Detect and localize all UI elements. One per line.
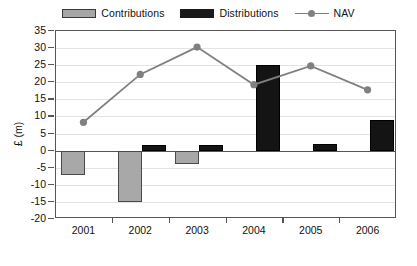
gridline	[56, 185, 395, 186]
distributions-swatch-icon	[180, 9, 214, 18]
x-axis-tick-mark	[226, 218, 227, 223]
y-axis-tick-mark	[48, 81, 54, 82]
zero-axis-line	[56, 151, 395, 152]
y-axis-tick-mark	[48, 64, 54, 65]
y-axis-tick-label: 20	[12, 75, 46, 87]
x-axis-tick-mark	[282, 218, 283, 223]
gridline	[56, 82, 395, 83]
gridline	[56, 99, 395, 100]
x-axis-tick-label: 2006	[340, 224, 396, 236]
y-axis-tick-label: 30	[12, 41, 46, 53]
y-axis-tick-mark	[48, 30, 54, 31]
x-axis-tick-label: 2003	[169, 224, 225, 236]
gridline	[56, 168, 395, 169]
y-axis-tick-label: 35	[12, 24, 46, 36]
y-axis-tick-mark	[48, 98, 54, 99]
legend-label-distributions: Distributions	[219, 8, 278, 19]
y-axis-tick-mark	[48, 218, 54, 219]
x-axis-tick-label: 2005	[283, 224, 339, 236]
y-axis-tick-label: 25	[12, 58, 46, 70]
x-axis-tick-mark	[169, 218, 170, 223]
y-axis-tick-mark	[48, 47, 54, 48]
x-axis-tick-mark	[339, 218, 340, 223]
y-axis-tick-label: -10	[12, 178, 46, 190]
x-axis-tick-mark	[112, 218, 113, 223]
chart-legend: Contributions Distributions NAV	[0, 4, 417, 22]
legend-item-contributions[interactable]: Contributions	[62, 8, 164, 19]
plot-area	[55, 30, 396, 218]
y-axis-tick-mark	[48, 133, 54, 134]
bar-distributions	[256, 65, 280, 150]
legend-label-contributions: Contributions	[101, 8, 164, 19]
bar-distributions	[370, 120, 394, 151]
bar-contributions	[175, 151, 199, 165]
y-axis-tick-label: -15	[12, 195, 46, 207]
y-axis-title: £ (m)	[12, 104, 24, 164]
legend-item-nav[interactable]: NAV	[295, 8, 355, 19]
legend-label-nav: NAV	[334, 8, 355, 19]
y-axis-tick-mark	[48, 201, 54, 202]
chart-figure: Contributions Distributions NAV 35302520…	[0, 0, 417, 266]
contributions-swatch-icon	[62, 9, 96, 18]
gridline	[56, 65, 395, 66]
x-axis-tick-label: 2001	[55, 224, 111, 236]
bar-distributions	[199, 145, 223, 151]
x-axis-tick-label: 2002	[112, 224, 168, 236]
legend-item-distributions[interactable]: Distributions	[180, 8, 278, 19]
nav-line-marker-icon	[295, 9, 329, 18]
bar-contributions	[118, 151, 142, 202]
y-axis: 35302520151050-5-10-15-20	[0, 0, 52, 266]
y-axis-tick-label: -20	[12, 212, 46, 224]
gridline	[56, 48, 395, 49]
y-axis-tick-mark	[48, 184, 54, 185]
y-axis-tick-mark	[48, 115, 54, 116]
y-axis-tick-mark	[48, 150, 54, 151]
x-axis-tick-label: 2004	[226, 224, 282, 236]
y-axis-tick-mark	[48, 167, 54, 168]
gridline	[56, 134, 395, 135]
bar-distributions	[142, 145, 166, 151]
y-axis-tick-label: 15	[12, 92, 46, 104]
bar-contributions	[61, 151, 85, 175]
bar-distributions	[313, 144, 337, 151]
gridline	[56, 202, 395, 203]
gridline	[56, 116, 395, 117]
